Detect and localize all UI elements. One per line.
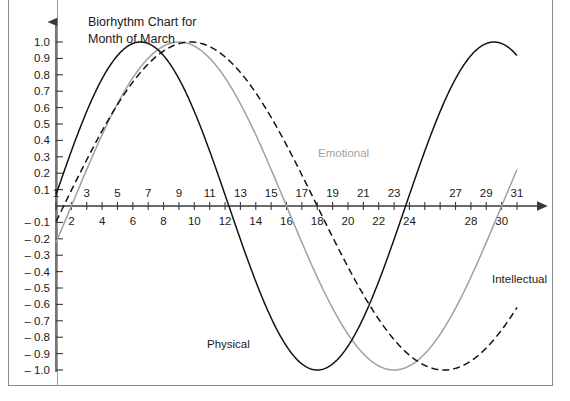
x-tick-label-odd: 15 (265, 187, 278, 199)
series-annotations: Physical Emotional Intellectual (207, 147, 547, 350)
x-tick-label-odd: 7 (145, 187, 151, 199)
y-tick-label: 0.8 (34, 69, 50, 81)
x-tick-label-even: 10 (188, 215, 201, 227)
y-tick-label: – 0.8 (24, 331, 50, 343)
y-tick-label: 0.3 (34, 151, 50, 163)
y-tick-label: – 0.2 (24, 233, 50, 245)
x-tick-label-odd: 31 (511, 187, 524, 199)
x-tick-label-even: 12 (219, 215, 232, 227)
y-tick-label: – 0.4 (24, 266, 50, 278)
chart-title-line2: Month of March (88, 32, 175, 46)
x-tick-label-odd: 11 (204, 187, 216, 199)
y-tick-label: 0.9 (34, 52, 50, 64)
x-tick-label-even: 20 (342, 215, 355, 227)
y-tick-label: 0.4 (34, 134, 51, 146)
x-tick-label-odd: 23 (388, 187, 401, 199)
x-tick-label-even: 14 (249, 215, 262, 227)
x-tick-label-odd: 29 (480, 187, 493, 199)
y-tick-label: 0.6 (34, 102, 50, 114)
x-tick-label-odd: 21 (357, 187, 370, 199)
y-tick-label: – 0.6 (24, 298, 50, 310)
x-tick-label-even: 28 (465, 215, 478, 227)
y-tick-label: – 0.1 (24, 216, 50, 228)
y-tick-label: 0.5 (34, 118, 50, 130)
series-label-emotional: Emotional (318, 147, 369, 159)
x-tick-label-odd: 17 (295, 187, 308, 199)
y-tick-label: 1.0 (34, 36, 50, 48)
series-label-intellectual: Intellectual (492, 273, 547, 285)
y-tick-label: – 0.3 (24, 249, 50, 261)
x-tick-label-even: 8 (160, 215, 166, 227)
y-tick-label: 0.2 (34, 167, 50, 179)
x-tick-label-even: 24 (403, 215, 416, 227)
x-tick-labels-odd: 1357911131517192123272931 (53, 187, 524, 199)
y-tick-label: – 0.5 (24, 282, 50, 294)
x-tick-label-even: 6 (130, 215, 136, 227)
x-tick-label-odd: 5 (114, 187, 120, 199)
x-tick-label-even: 4 (99, 215, 106, 227)
chart-svg: 1.00.90.80.70.60.50.40.30.20.1– 0.1– 0.2… (0, 0, 570, 401)
x-tick-label-odd: 9 (176, 187, 182, 199)
x-tick-labels-even: 246810121416182022242830 (68, 215, 508, 227)
chart-title-line1: Biorhythm Chart for (88, 15, 196, 29)
x-tick-label-odd: 19 (326, 187, 339, 199)
y-tick-label: – 1.0 (24, 364, 50, 376)
y-tick-label: – 0.7 (24, 315, 50, 327)
x-tick-label-odd: 3 (84, 187, 90, 199)
x-tick-label-even: 22 (372, 215, 385, 227)
x-tick-label-odd: 13 (234, 187, 247, 199)
x-tick-label-even: 2 (68, 215, 74, 227)
y-tick-label: – 0.9 (24, 348, 50, 360)
series-label-physical: Physical (207, 338, 250, 350)
y-tick-label: 0.1 (34, 184, 50, 196)
x-tick-label-even: 18 (311, 215, 324, 227)
y-tick-labels: 1.00.90.80.70.60.50.40.30.20.1– 0.1– 0.2… (24, 36, 50, 376)
y-tick-label: 0.7 (34, 85, 50, 97)
x-tick-label-odd: 27 (449, 187, 462, 199)
biorhythm-chart: 1.00.90.80.70.60.50.40.30.20.1– 0.1– 0.2… (0, 0, 570, 401)
